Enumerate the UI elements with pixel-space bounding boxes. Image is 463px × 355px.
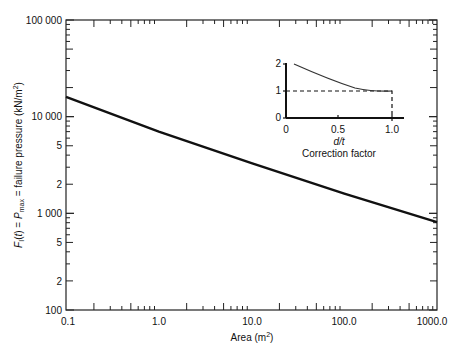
inset-x-tick-label: 0 bbox=[283, 124, 289, 135]
y-tick-label: 5 bbox=[56, 140, 62, 151]
y-tick-label: 100 bbox=[45, 305, 62, 316]
x-tick-label: 100.0 bbox=[331, 316, 356, 327]
y-tick-label: 2 bbox=[56, 276, 62, 287]
inset-y-tick-label: 2 bbox=[275, 58, 281, 69]
chart: 100 000 10 000 5 2 1 000 5 2 100 0.1 1.0… bbox=[0, 0, 463, 355]
inset-correction-curve bbox=[294, 64, 392, 91]
x-axis-title: Area (m2) bbox=[231, 331, 274, 343]
x-tick-label: 1.0 bbox=[152, 316, 166, 327]
inset-y-tick-label: 1 bbox=[275, 85, 281, 96]
y-axis-tick-labels: 100 000 10 000 5 2 1 000 5 2 100 bbox=[26, 15, 63, 316]
inset-y-tick-label: 0 bbox=[275, 112, 281, 123]
inset-x-axis-title: d/t bbox=[333, 136, 345, 147]
inset-title: Correction factor bbox=[302, 148, 377, 159]
x-tick-label: 0.1 bbox=[61, 316, 75, 327]
inset-x-tick-label: 1.0 bbox=[385, 124, 399, 135]
y-tick-label: 10 000 bbox=[31, 111, 62, 122]
axis-ticks bbox=[66, 20, 437, 310]
inset-reference-line bbox=[286, 91, 392, 118]
x-tick-label: 1000.0 bbox=[417, 316, 448, 327]
plot-frame bbox=[66, 20, 437, 310]
failure-pressure-line bbox=[66, 97, 437, 222]
inset-x-tick-label: 0.5 bbox=[331, 124, 345, 135]
y-axis-title: FI(t) = Pmax = failure pressure (kN/m2) bbox=[12, 82, 25, 248]
y-tick-label: 1 000 bbox=[37, 208, 62, 219]
x-axis-tick-labels: 0.1 1.0 10.0 100.0 1000.0 bbox=[61, 316, 448, 327]
y-tick-label: 2 bbox=[56, 179, 62, 190]
inset-correction-factor-chart: 2 1 0 0 0.5 1.0 d/t Correction factor bbox=[275, 58, 404, 159]
y-tick-label: 100 000 bbox=[26, 15, 63, 26]
x-tick-label: 10.0 bbox=[242, 316, 262, 327]
y-tick-label: 5 bbox=[56, 237, 62, 248]
